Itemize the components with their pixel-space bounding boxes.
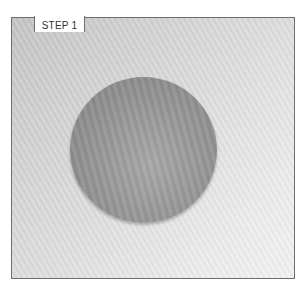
dough-disc-texture <box>70 77 217 223</box>
step-tab: STEP 1 <box>34 16 85 32</box>
dough-disc <box>70 77 217 223</box>
step-label: STEP 1 <box>42 20 77 31</box>
